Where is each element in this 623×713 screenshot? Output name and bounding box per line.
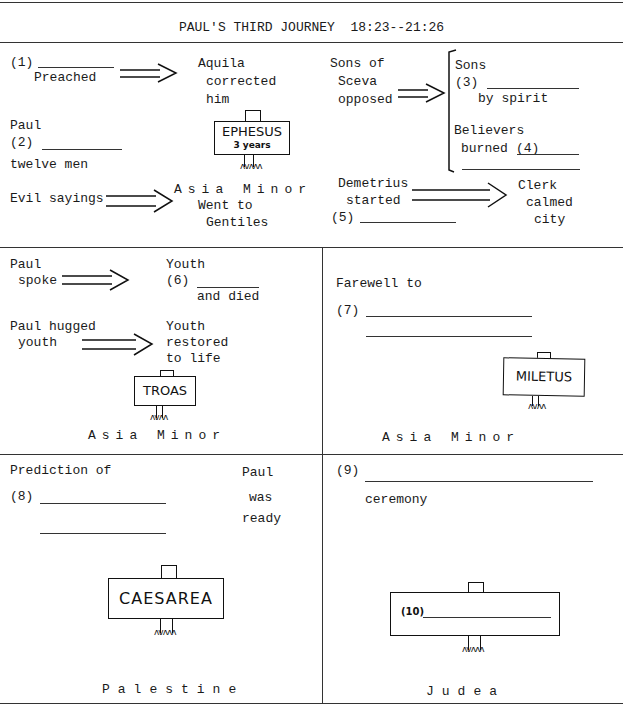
grass-icon: ʌvʌʌʌ <box>462 644 484 654</box>
preached-label: Preached <box>34 70 96 86</box>
youth-restored-line-3: to life <box>166 351 221 367</box>
demetrius-line-1: Demetrius <box>338 176 408 192</box>
demetrius-line-2: started <box>346 193 401 209</box>
sign-cap <box>161 565 177 578</box>
clerk-line-3: city <box>534 212 565 228</box>
title-rule <box>0 42 623 43</box>
grass-icon: ʌvʌʌʌ <box>240 161 262 171</box>
region-label: Asia Minor <box>174 182 312 198</box>
arrow-icon <box>82 333 154 359</box>
prediction-label: Prediction of <box>10 463 111 479</box>
answer-blank-7b[interactable] <box>366 336 532 337</box>
by-spirit-label: by spirit <box>478 91 548 107</box>
region-label: Judea <box>426 684 505 700</box>
burned-label: burned <box>461 141 508 157</box>
sons-label: Sons <box>455 58 486 74</box>
caesarea-sign: CAESAREA <box>108 578 224 619</box>
answer-blank-6[interactable] <box>197 287 259 288</box>
sign-name: EPHESUS <box>215 124 289 140</box>
paul-spoke-line-2: spoke <box>18 273 57 289</box>
arrow-icon <box>120 62 178 86</box>
sign-name: CAESAREA <box>109 579 223 618</box>
answer-blank-2[interactable] <box>42 149 122 150</box>
aquila-line-1: Aquila <box>198 56 245 72</box>
youth-restored-line-1: Youth <box>166 319 205 335</box>
page-title: PAUL'S THIRD JOURNEY 18:23--21:26 <box>0 20 623 36</box>
item-6-number: (6) <box>166 273 189 289</box>
top-rule <box>0 2 623 3</box>
farewell-label: Farewell to <box>336 276 422 292</box>
went-to-line-1: Went to <box>198 198 253 214</box>
sign-name: MILETUS <box>504 358 585 395</box>
item-5-number: (5) <box>331 210 354 226</box>
item-2-number: (2) <box>10 135 33 151</box>
answer-blank-8[interactable] <box>40 503 166 504</box>
grass-icon: ʌvʌʌ <box>528 401 545 411</box>
judea-sign: (10) <box>390 592 560 636</box>
region-label: Asia Minor <box>382 430 520 446</box>
ephesus-sign: EPHESUS 3 years <box>214 121 290 155</box>
answer-blank-7[interactable] <box>366 316 532 317</box>
youth-died-line-1: Youth <box>166 257 205 273</box>
clerk-line-1: Clerk <box>518 178 557 194</box>
answer-blank-8b[interactable] <box>40 533 166 534</box>
answer-blank-9[interactable] <box>365 481 593 482</box>
paul-ready-line-3: ready <box>242 511 281 527</box>
evil-sayings-label: Evil sayings <box>10 191 104 207</box>
grass-icon: ʌvʌʌ <box>150 412 167 422</box>
answer-blank-4b[interactable] <box>462 169 580 170</box>
troas-sign: TROAS <box>134 376 196 406</box>
item-7-number: (7) <box>336 303 359 319</box>
miletus-sign: MILETUS <box>503 357 586 396</box>
ceremony-label: ceremony <box>365 492 427 508</box>
grass-icon: ʌvʌʌʌ <box>154 627 176 637</box>
aquila-line-2: corrected <box>206 74 276 90</box>
sign-number: (10) <box>401 606 424 617</box>
item-8-number: (8) <box>10 489 33 505</box>
answer-blank-3[interactable] <box>487 88 579 89</box>
column-divider <box>322 247 323 703</box>
youth-died-line-3: and died <box>197 289 259 305</box>
sign-name: TROAS <box>135 377 195 405</box>
went-to-line-2: Gentiles <box>206 215 268 231</box>
paul-label: Paul <box>10 118 41 134</box>
answer-blank-1[interactable] <box>38 67 114 68</box>
item-3-number: (3) <box>455 75 478 91</box>
region-label: Asia Minor <box>88 428 226 444</box>
section-divider <box>0 247 623 248</box>
clerk-line-2: calmed <box>526 195 573 211</box>
believers-label: Believers <box>454 123 524 139</box>
aquila-line-3: him <box>206 92 229 108</box>
item-1-number: (1) <box>10 55 33 71</box>
section-divider <box>0 454 623 455</box>
paul-ready-line-1: Paul <box>242 465 273 481</box>
answer-blank-5[interactable] <box>360 222 456 223</box>
bottom-rule <box>0 703 623 704</box>
paul-ready-line-2: was <box>249 490 272 506</box>
paul-spoke-line-1: Paul <box>10 257 41 273</box>
sceva-line-2: Sceva <box>338 74 377 90</box>
region-label: Palestine <box>102 682 244 698</box>
sceva-line-1: Sons of <box>330 56 385 72</box>
sceva-line-3: opposed <box>338 92 393 108</box>
paul-hugged-line-2: youth <box>18 335 57 351</box>
answer-blank-4[interactable] <box>517 154 579 155</box>
twelve-men-label: twelve men <box>10 157 88 173</box>
sign-subtitle: 3 years <box>215 140 289 150</box>
item-9-number: (9) <box>336 463 359 479</box>
youth-restored-line-2: restored <box>166 335 228 351</box>
arrow-icon <box>398 82 446 106</box>
answer-blank-10[interactable] <box>423 617 551 618</box>
arrow-icon <box>62 268 130 294</box>
arrow-icon <box>412 180 508 210</box>
arrow-icon <box>106 188 174 216</box>
